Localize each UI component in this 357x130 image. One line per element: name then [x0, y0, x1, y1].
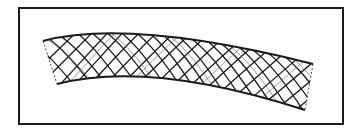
- stent-bottom-edge: [57, 76, 305, 110]
- stent-mesh: [5, 15, 350, 128]
- stent-illustration: [0, 0, 357, 130]
